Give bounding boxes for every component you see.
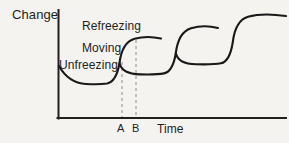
- curve-cycle-2: [120, 26, 219, 74]
- annotation-moving: Moving: [82, 41, 121, 55]
- y-axis-label: Change: [12, 7, 58, 22]
- annotation-unfreezing: Unfreezing: [59, 58, 118, 72]
- curve-cycle-3: [176, 15, 286, 65]
- x-axis-label: Time: [157, 122, 184, 136]
- change-curve-diagram: Change Refreezing Moving Unfreezing A B …: [0, 0, 289, 143]
- annotation-refreezing: Refreezing: [82, 19, 141, 33]
- x-tick-label-a: A: [117, 122, 124, 134]
- x-tick-label-b: B: [132, 122, 139, 134]
